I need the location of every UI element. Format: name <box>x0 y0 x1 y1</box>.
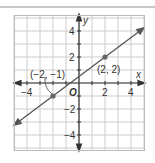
point-label-2-2: (2, 2) <box>97 64 120 75</box>
y-tick-label-neg4: −4 <box>64 130 76 141</box>
point-label-neg2-neg1: (−2, −1) <box>30 69 65 80</box>
x-tick-label-neg4: −4 <box>21 87 33 98</box>
y-tick-label-neg2: −2 <box>64 104 76 115</box>
y-axis-label: y <box>82 15 89 26</box>
y-tick-label-2: 2 <box>69 52 75 63</box>
x-axis-arrow-left-icon <box>14 81 21 86</box>
y-axis-arrow-down-icon <box>77 144 82 151</box>
point-neg2-neg1 <box>50 93 55 98</box>
origin-label: O <box>69 87 77 98</box>
axes <box>14 14 145 151</box>
point-2-2 <box>102 54 107 59</box>
x-tick-label-2: 2 <box>102 87 108 98</box>
coordinate-plane: (−2, −1) (2, 2) x y O −4 2 4 4 2 −2 −4 <box>0 0 155 163</box>
x-axis-label: x <box>135 69 142 80</box>
y-tick-label-4: 4 <box>69 26 75 37</box>
x-tick-label-4: 4 <box>128 87 134 98</box>
